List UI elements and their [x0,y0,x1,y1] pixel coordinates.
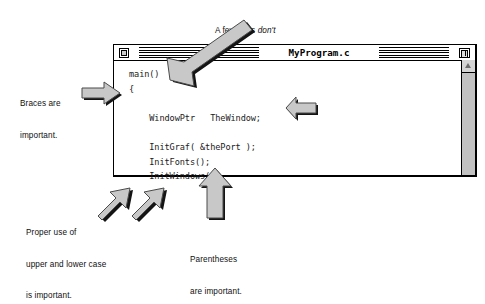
callout-arrow-semicolon-top [160,14,260,86]
annotation-parens: Parentheses are important. [190,234,242,304]
chevron-up-icon [465,63,471,68]
callout-arrow-parens [198,166,236,222]
annotation-emphasis: don't [258,26,276,35]
scroll-up-arrow-icon[interactable] [462,60,475,73]
annotation-case-line2: upper and lower case [26,260,106,271]
vertical-scrollbar[interactable] [461,60,475,175]
close-box-icon[interactable] [119,48,129,58]
window-title: MyProgram.c [259,46,379,60]
annotation-parens-line2: are important. [190,287,242,298]
zoom-box-edge [465,50,468,56]
annotation-braces: Braces are important. [20,78,61,162]
close-box-inner [121,50,127,56]
annotation-case: Proper use of upper and lower case is im… [26,207,106,304]
annotation-case-line1: Proper use of [26,228,106,239]
callout-arrow-braces [80,80,122,106]
annotation-braces-line1: Braces are [20,99,61,110]
callout-arrow-case-second [130,160,186,218]
annotation-parens-line1: Parentheses [190,255,242,266]
title-bar-stripes-right [379,47,449,58]
annotation-case-line3: is important. [26,291,106,302]
zoom-box-icon[interactable] [459,48,470,58]
annotation-braces-line2: important. [20,131,61,142]
callout-arrow-semicolon-right [284,95,318,121]
